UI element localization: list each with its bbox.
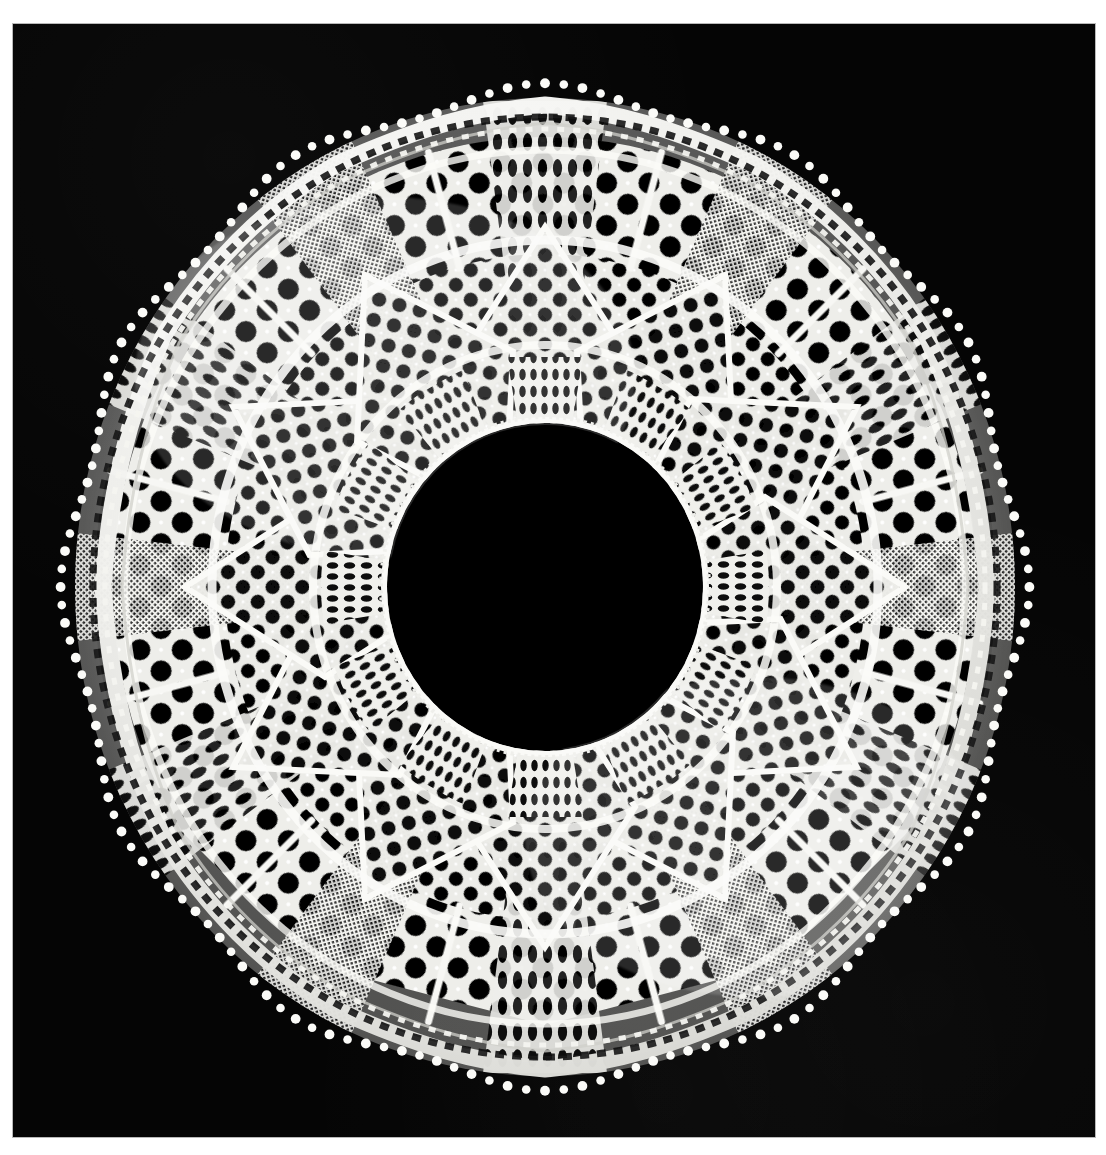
picot-loop — [117, 338, 127, 348]
picot-loop — [450, 102, 459, 111]
picot-loop — [981, 390, 990, 399]
picot-loop — [60, 618, 70, 628]
picot-loop — [103, 792, 113, 802]
picot-loop — [1004, 495, 1013, 504]
picot-loop — [943, 308, 953, 318]
picot-loop — [989, 721, 999, 731]
picot-loop — [227, 218, 236, 227]
picot-loop — [66, 529, 75, 538]
picot-loop — [151, 870, 160, 879]
picot-loop — [88, 461, 97, 470]
picot-loop — [789, 150, 799, 160]
picot-loop — [560, 1085, 569, 1094]
picot-loop — [994, 461, 1003, 470]
picot-loop — [97, 756, 107, 766]
picot-loop — [127, 323, 136, 332]
picot-loop — [291, 150, 301, 160]
picot-loop — [95, 739, 104, 748]
picot-loop — [227, 948, 236, 957]
picot-loop — [262, 174, 272, 184]
picot-loop — [719, 126, 729, 136]
picot-loop — [325, 135, 335, 145]
picot-loop — [632, 102, 641, 111]
picot-loop — [485, 1076, 494, 1085]
picot-loop — [865, 232, 875, 242]
picot-loop — [91, 444, 101, 454]
picot-loop — [432, 1056, 442, 1066]
picot-loop — [78, 670, 87, 679]
picot-loop — [380, 123, 389, 132]
picot-loop — [467, 95, 477, 105]
picot-loop — [250, 188, 259, 197]
picot-loop — [450, 1063, 459, 1072]
picot-loop — [818, 990, 828, 1000]
picot-loop — [397, 1046, 407, 1056]
picot-loop — [66, 636, 75, 645]
picot-loop — [110, 811, 119, 820]
picot-loop — [1024, 582, 1034, 592]
picot-loop — [789, 1014, 799, 1024]
picot-loop — [916, 282, 926, 292]
picot-loop — [577, 1081, 587, 1091]
picot-loop — [596, 1076, 605, 1085]
picot-loop — [71, 653, 81, 663]
picot-loop — [614, 95, 624, 105]
picot-loop — [666, 114, 675, 123]
picot-loop — [632, 1063, 641, 1072]
picot-loop — [1020, 546, 1030, 556]
picot-loop — [977, 372, 987, 382]
picot-loop — [262, 990, 272, 1000]
picot-loop — [485, 89, 494, 98]
picot-loop — [1004, 670, 1013, 679]
picot-loop — [250, 977, 259, 986]
picot-loop — [503, 1081, 513, 1091]
picot-loop — [702, 123, 711, 132]
picot-loop — [432, 108, 442, 118]
picot-loop — [540, 78, 550, 88]
picot-loop — [683, 118, 693, 128]
picot-loop — [276, 1004, 285, 1013]
picot-loop — [955, 323, 964, 332]
picot-loop — [100, 775, 109, 784]
picot-loop — [503, 83, 513, 93]
picot-loop — [1009, 511, 1019, 521]
photograph — [13, 24, 1095, 1137]
picot-loop — [1016, 529, 1025, 538]
picot-loop — [325, 1030, 335, 1040]
picot-loop — [237, 962, 247, 972]
circular-knitted-lace-doily — [55, 77, 1035, 1097]
picot-loop — [1024, 601, 1033, 610]
picot-loop — [805, 162, 814, 171]
picot-loop — [989, 444, 999, 454]
picot-loop — [415, 114, 424, 123]
picot-loop — [117, 827, 127, 837]
picot-loop — [774, 142, 783, 151]
picot-loop — [97, 408, 107, 418]
picot-loop — [361, 1039, 371, 1049]
picot-loop — [998, 478, 1008, 488]
picot-loop — [1016, 636, 1025, 645]
picot-loop — [164, 882, 174, 892]
picot-loop — [648, 108, 658, 118]
picot-loop — [930, 295, 939, 304]
picot-loop — [100, 390, 109, 399]
picot-loop — [719, 1039, 729, 1049]
picot-loop — [987, 427, 996, 436]
picot-loop — [380, 1043, 389, 1052]
picot-loop — [103, 372, 113, 382]
picot-loop — [78, 495, 87, 504]
picot-loop — [308, 142, 317, 151]
picot-loop — [467, 1069, 477, 1079]
picot-loop — [981, 775, 990, 784]
picot-loop — [343, 130, 352, 139]
picot-loop — [191, 906, 201, 916]
picot-loop — [415, 1051, 424, 1060]
picot-loop — [984, 756, 994, 766]
picot-loop — [832, 188, 841, 197]
picot-loop — [1024, 565, 1033, 574]
picot-loop — [683, 1046, 693, 1056]
picot-loop — [890, 258, 900, 268]
picot-loop — [138, 856, 148, 866]
picot-loop — [361, 126, 371, 136]
picot-loop — [998, 687, 1008, 697]
